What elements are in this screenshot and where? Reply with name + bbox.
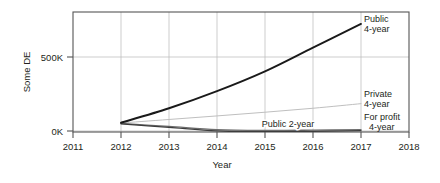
for-profit-4-year-label-line2: 4-year xyxy=(369,122,395,132)
ytick-label-0k: 0K xyxy=(51,126,63,137)
xtick-label-2015: 2015 xyxy=(254,141,275,152)
xtick-label-2012: 2012 xyxy=(110,141,131,152)
y-axis-ticks xyxy=(67,57,73,131)
private-4-year-label-line2: 4-year xyxy=(364,99,390,109)
public-4-year-label-line2: 4-year xyxy=(364,24,390,34)
xtick-label-2018: 2018 xyxy=(398,141,419,152)
xtick-label-2014: 2014 xyxy=(206,141,227,152)
xtick-label-2013: 2013 xyxy=(158,141,179,152)
private-4-year-label-line1: Private xyxy=(364,89,392,99)
public-2-year-label: Public 2-year xyxy=(262,119,315,129)
x-axis-ticks xyxy=(73,132,409,138)
public-4-year-label-line1: Public xyxy=(364,14,389,24)
ytick-label-500k: 500K xyxy=(41,52,64,63)
y-axis-title: Some DE xyxy=(21,52,32,93)
xtick-label-2011: 2011 xyxy=(63,141,83,152)
for-profit-4-year-label-line1: For profit xyxy=(364,112,401,122)
xtick-label-2017: 2017 xyxy=(350,141,371,152)
chart-container: 500K 0K Some DE 2011 2012 2013 2014 2015… xyxy=(0,0,440,183)
x-axis-title: Year xyxy=(212,159,231,170)
xtick-label-2016: 2016 xyxy=(302,141,323,152)
line-chart: 500K 0K Some DE 2011 2012 2013 2014 2015… xyxy=(0,0,440,183)
